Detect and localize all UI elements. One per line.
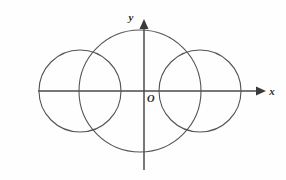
y-axis-label: y: [127, 11, 134, 23]
figure-canvas: y x O: [0, 0, 286, 180]
geometry-figure: y x O: [0, 0, 286, 180]
x-axis-arrow-icon: [256, 87, 266, 96]
y-axis-arrow-icon: [140, 19, 149, 29]
origin-label: O: [147, 93, 155, 104]
x-axis-label: x: [268, 85, 275, 97]
